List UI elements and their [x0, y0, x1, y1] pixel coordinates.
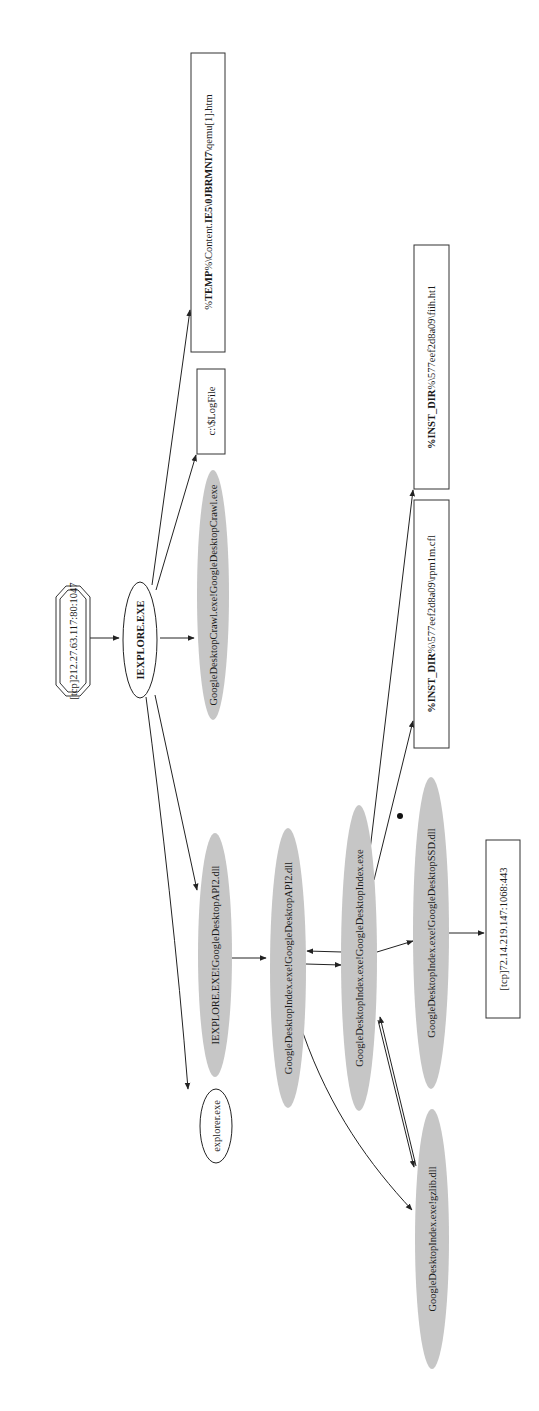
node-logfile[interactable]: c:\$LogFile [197, 369, 225, 454]
edge-iexplore-to-explorer [146, 697, 188, 1089]
stray-dot-mark [397, 813, 403, 819]
node-inst-cfl[interactable]: %INST_DIR%\577eef2d8a09\rpm1m.cfl [414, 500, 449, 748]
edge-idx-exe-to-idx-ssd [377, 941, 413, 952]
node-tcp-source[interactable]: [tcp]212.27.63.117:80:1047 [56, 582, 90, 699]
node-temp-htm[interactable]: %TEMP%\Content.IE5\0JBRMNI7\qemu[1].htm [191, 53, 225, 352]
node-explorer[interactable]: explorer.exe [200, 1089, 232, 1163]
edge-idx-exe-to-inst-cfl [374, 721, 413, 880]
node-tcp-source-label: [tcp]212.27.63.117:80:1047 [68, 582, 79, 699]
edge-iexplore-to-temp-htm [152, 310, 190, 585]
node-temp-htm-label: %TEMP%\Content.IE5\0JBRMNI7\qemu[1].htm [203, 94, 214, 309]
node-ie-api2-label: IEXPLORE.EXE!GoogleDesktopAPI2.dll [210, 865, 221, 1044]
node-idx-gzlib[interactable]: GoogleDesktopIndex.exe!gzlib.dll [415, 1109, 449, 1369]
node-crawl[interactable]: GoogleDesktopCrawl.exe!GoogleDesktopCraw… [197, 470, 229, 720]
edge-idx-api2-to-idx-exe [306, 964, 341, 965]
node-idx-api2[interactable]: GoogleDesktopIndex.exe!GoogleDesktopAPI2… [270, 828, 306, 1108]
node-idx-gzlib-label: GoogleDesktopIndex.exe!gzlib.dll [427, 1166, 438, 1311]
node-idx-api2-label: GoogleDesktopIndex.exe!GoogleDesktopAPI2… [283, 862, 294, 1074]
edge-iexplore-to-ie-api2 [155, 695, 197, 890]
edge-idx-exe-to-idx-api2 [307, 951, 342, 952]
edge-idx-gzlib-to-idx-exe [380, 1017, 416, 1166]
node-explorer-label: explorer.exe [211, 1100, 222, 1152]
node-idx-exe-label: GoogleDesktopIndex.exe!GoogleDesktopInde… [354, 849, 365, 1067]
process-graph-diagram: [tcp]212.27.63.117:80:1047 IEXPLORE.EXE … [0, 0, 539, 1411]
node-crawl-label: GoogleDesktopCrawl.exe!GoogleDesktopCraw… [208, 484, 219, 705]
node-idx-ssd[interactable]: GoogleDesktopIndex.exe!GoogleDesktopSSD.… [413, 777, 449, 1089]
node-inst-cfl-label: %INST_DIR%\577eef2d8a09\rpm1m.cfl [426, 535, 437, 713]
node-inst-ht1-label: %INST_DIR%\577eef2d8a09\fiih.ht1 [426, 285, 437, 449]
edge-iexplore-to-logfile [156, 455, 196, 590]
node-ie-api2[interactable]: IEXPLORE.EXE!GoogleDesktopAPI2.dll [198, 833, 232, 1077]
node-iexplore[interactable]: IEXPLORE.EXE [123, 582, 157, 698]
node-idx-ssd-label: GoogleDesktopIndex.exe!GoogleDesktopSSD.… [426, 828, 437, 1037]
node-inst-ht1[interactable]: %INST_DIR%\577eef2d8a09\fiih.ht1 [414, 245, 449, 489]
node-tcp-destination-label: [tcp]72.14.219.147:1068:443 [498, 868, 509, 991]
node-tcp-destination[interactable]: [tcp]72.14.219.147:1068:443 [486, 840, 520, 1018]
edge-idx-exe-to-inst-ht1 [370, 490, 413, 850]
node-idx-exe[interactable]: GoogleDesktopIndex.exe!GoogleDesktopInde… [341, 805, 377, 1111]
node-logfile-label: c:\$LogFile [206, 386, 217, 435]
node-iexplore-label: IEXPLORE.EXE [135, 600, 146, 679]
edge-idx-exe-to-idx-gzlib [378, 1020, 414, 1167]
